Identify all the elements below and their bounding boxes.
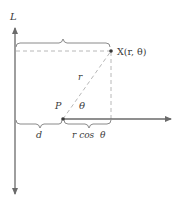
- point-x-label: X(r, θ): [117, 46, 146, 57]
- angle-theta-label: θ: [79, 100, 85, 111]
- projection-label: r cos θ: [72, 130, 106, 140]
- brace-r-cos-theta: [64, 120, 111, 128]
- brace-d: [16, 120, 62, 128]
- distance-d-label: d: [36, 129, 42, 140]
- segment-r: [63, 51, 111, 119]
- top-brace: [16, 39, 110, 47]
- point-p-label: P: [54, 100, 62, 111]
- segment-r-label: r: [78, 72, 83, 82]
- axis-label-l: L: [9, 11, 17, 22]
- point-x: [109, 49, 113, 53]
- polar-distance-diagram: L r X(r, θ) P θ d r cos θ: [0, 0, 180, 203]
